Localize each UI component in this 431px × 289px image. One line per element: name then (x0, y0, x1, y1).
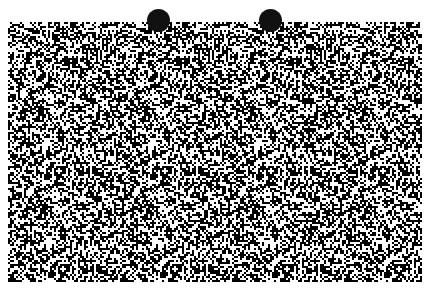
stereogram (0, 0, 431, 289)
fixation-dot-left (147, 9, 170, 32)
random-dot-pattern (8, 22, 422, 282)
fixation-dot-right (259, 9, 282, 32)
